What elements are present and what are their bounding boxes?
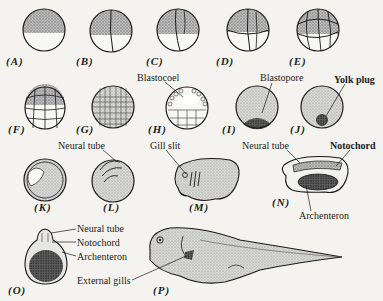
annotation-neural-tube-o: Neural tube [77, 223, 124, 234]
stage-label-n: (N) [272, 196, 290, 208]
stage-p-drawing [132, 228, 342, 283]
stage-label-i: (I) [222, 123, 237, 135]
stage-label-m: (M) [189, 201, 209, 213]
stage-o-drawing [25, 229, 76, 284]
annotation-external-gills: External gills [77, 275, 131, 286]
annotation-notochord-o: Notochord [77, 237, 120, 248]
stage-d-drawing [225, 8, 273, 51]
stage-label-p: (P) [153, 284, 170, 296]
stage-label-l: (L) [103, 201, 120, 213]
stage-j-drawing [301, 84, 345, 128]
annotation-yolk-plug: Yolk plug [334, 74, 375, 85]
annotation-gill-slit: Gill slit [150, 140, 180, 151]
stage-label-j: (J) [290, 123, 306, 135]
stage-label-o: (O) [8, 284, 26, 296]
annotation-archenteron-n: Archenteron [299, 210, 349, 221]
stage-label-f: (F) [8, 123, 26, 135]
stage-e-drawing [295, 8, 343, 51]
annotation-notochord-n: Notochord [330, 140, 376, 151]
stage-l-drawing [92, 150, 134, 202]
stage-k-drawing [24, 159, 66, 201]
stage-label-c: (C) [146, 55, 164, 67]
stage-n-drawing [282, 150, 350, 211]
annotation-blastopore: Blastopore [260, 72, 303, 83]
stage-h-drawing [165, 82, 208, 129]
stage-f-drawing [25, 84, 65, 129]
stage-m-drawing [166, 150, 239, 200]
annotation-blastocoel: Blastocoel [137, 72, 179, 83]
stage-label-e: (E) [289, 55, 307, 67]
stage-label-b: (B) [76, 55, 94, 67]
annotation-archenteron-o: Archenteron [77, 251, 127, 262]
stage-label-k: (K) [34, 201, 52, 213]
stage-label-g: (G) [76, 123, 94, 135]
annotation-neural-tube-l: Neural tube [58, 140, 105, 151]
stage-c-drawing [155, 8, 203, 51]
stage-label-h: (H) [148, 123, 167, 135]
stage-label-a: (A) [6, 55, 24, 67]
stage-a-drawing [20, 8, 68, 51]
stage-i-drawing [236, 83, 278, 129]
stage-label-d: (D) [216, 55, 234, 67]
annotation-neural-tube-n: Neural tube [242, 140, 289, 151]
stage-g-drawing [92, 86, 134, 128]
stage-b-drawing [88, 9, 136, 52]
embryo-development-figure: (A) (B) (C) (D) (E) (F) (G) (H) (I) (J) … [0, 0, 383, 301]
